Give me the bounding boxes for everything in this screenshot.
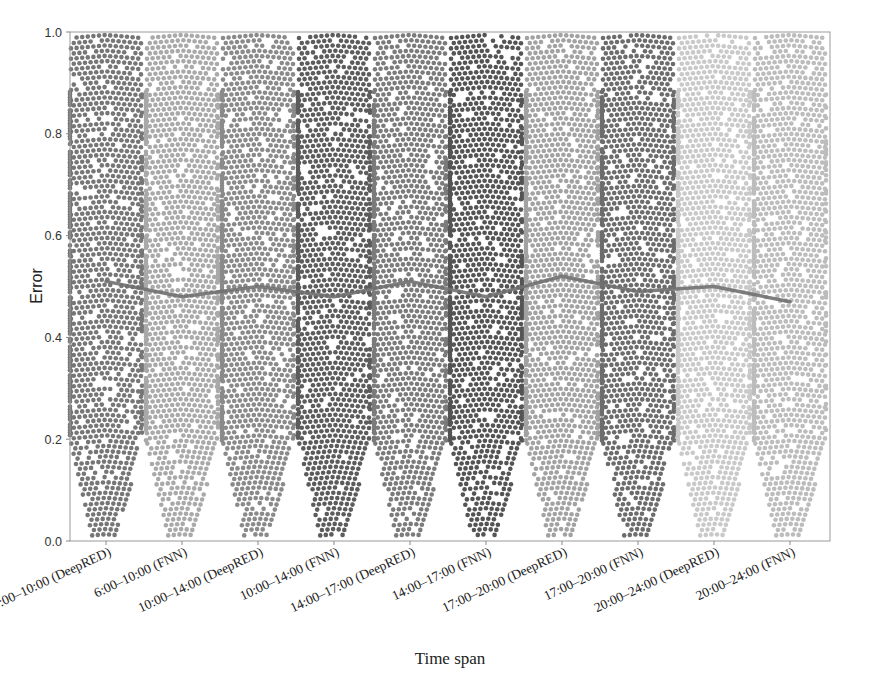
x-tick-label: 6:00–10:00 (DeepRED) xyxy=(0,544,113,612)
y-tick-label: 0.2 xyxy=(45,433,62,447)
y-axis-title: Error xyxy=(28,268,45,304)
swarm-chart: 0.00.20.40.60.81.0 6:00–10:00 (DeepRED)6… xyxy=(0,0,876,697)
y-tick-label: 0.6 xyxy=(45,229,62,243)
swarm-9 xyxy=(752,33,829,538)
x-tick-label: 14:00–17:00 (DeepRED) xyxy=(288,544,418,615)
swarm-3 xyxy=(296,33,373,538)
x-tick-label: 20:00–24:00 (DeepRED) xyxy=(592,544,722,615)
x-tick-label: 10:00–14:00 (DeepRED) xyxy=(136,544,266,615)
swarm-5 xyxy=(448,33,525,537)
y-tick-label: 0.8 xyxy=(45,127,62,141)
y-tick-label: 1.0 xyxy=(45,26,62,40)
swarm-1 xyxy=(144,33,221,538)
x-axis: 6:00–10:00 (DeepRED)6:00–10:00 (FNN)10:0… xyxy=(0,541,797,615)
y-tick-label: 0.4 xyxy=(45,331,62,345)
y-axis: 0.00.20.40.60.81.0 xyxy=(45,26,70,549)
y-tick-label: 0.0 xyxy=(45,535,62,549)
x-tick-label: 17:00–20:00 (DeepRED) xyxy=(440,544,570,615)
x-axis-title: Time span xyxy=(415,649,486,668)
